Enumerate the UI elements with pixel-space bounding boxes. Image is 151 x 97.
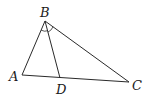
label-c: C bbox=[132, 78, 142, 93]
segment-ac bbox=[22, 75, 129, 82]
triangle-diagram: B A D C bbox=[0, 0, 151, 97]
segment-ab bbox=[22, 21, 45, 75]
label-b: B bbox=[39, 5, 50, 20]
angle-arc-dbc bbox=[48, 27, 53, 32]
label-d: D bbox=[55, 82, 67, 97]
label-a: A bbox=[8, 69, 18, 84]
segment-bc bbox=[45, 21, 129, 82]
angle-arc-abd bbox=[41, 30, 47, 31]
segment-bd bbox=[45, 21, 60, 78]
